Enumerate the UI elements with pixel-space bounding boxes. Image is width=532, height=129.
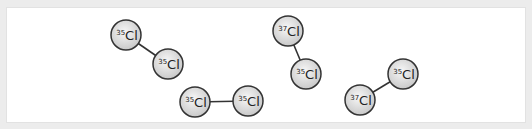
element-symbol: Cl [359,93,372,108]
atom-cl-37: 37Cl [345,85,375,115]
mass-number: 37 [350,94,359,102]
mass-number: 35 [116,29,125,37]
mass-number: 35 [238,95,247,103]
mass-number: 35 [393,68,402,76]
atom-cl-35: 35Cl [111,20,141,50]
element-symbol: Cl [194,95,207,110]
mass-number: 35 [296,68,305,76]
mass-number: 35 [158,58,167,66]
element-symbol: Cl [305,67,318,82]
element-symbol: Cl [167,57,180,72]
mass-number: 37 [278,25,287,33]
mass-number: 35 [185,96,194,104]
element-symbol: Cl [287,24,300,39]
atom-cl-37: 37Cl [273,16,303,46]
element-symbol: Cl [125,28,138,43]
element-symbol: Cl [247,94,260,109]
atom-cl-35: 35Cl [291,59,321,89]
element-symbol: Cl [402,67,415,82]
atoms-layer: 35Cl35Cl35Cl35Cl37Cl35Cl37Cl35Cl [111,16,418,117]
atom-cl-35: 35Cl [180,87,210,117]
atom-cl-35: 35Cl [153,49,183,79]
atom-cl-35: 35Cl [388,59,418,89]
atom-cl-35: 35Cl [233,86,263,116]
chlorine-isotope-molecules-diagram: 35Cl35Cl35Cl35Cl37Cl35Cl37Cl35Cl [0,0,532,129]
